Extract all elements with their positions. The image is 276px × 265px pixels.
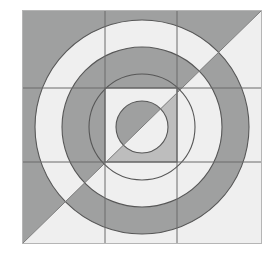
geometric-figure [0,0,276,265]
artboard [0,0,276,265]
